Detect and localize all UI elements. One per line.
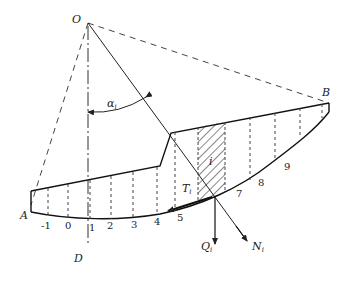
label-b: B [321, 86, 330, 99]
svg-text:1: 1 [89, 222, 95, 233]
label-slice-i: i [209, 155, 213, 168]
label-n: Ni [251, 240, 264, 254]
svg-text:9: 9 [284, 161, 290, 172]
slice-numbers: -1 0 1 2 3 4 5 7 8 9 [41, 161, 290, 233]
svg-text:2: 2 [107, 220, 113, 231]
radius-ob-dashed [88, 23, 329, 103]
label-o: O [72, 13, 81, 26]
svg-text:0: 0 [65, 220, 71, 231]
svg-text:8: 8 [258, 177, 264, 188]
label-q: Qi [201, 240, 212, 254]
angle-arc-alpha [88, 97, 146, 112]
ground-surface [31, 103, 329, 191]
force-n-arrow [236, 226, 247, 241]
label-alpha: αi [107, 97, 117, 111]
svg-text:3: 3 [131, 219, 137, 230]
svg-text:7: 7 [236, 188, 242, 199]
svg-text:-1: -1 [41, 220, 51, 231]
slice-dividers [48, 104, 322, 219]
svg-text:4: 4 [154, 216, 160, 227]
label-t: Ti [182, 182, 192, 196]
label-a: A [19, 209, 28, 222]
slope-stability-diagram: O A B D αi i Ti Qi Ni -1 0 1 2 3 4 5 7 8… [0, 0, 351, 285]
label-d: D [73, 252, 83, 265]
radius-oa-dashed [31, 23, 88, 205]
svg-text:5: 5 [177, 212, 183, 223]
